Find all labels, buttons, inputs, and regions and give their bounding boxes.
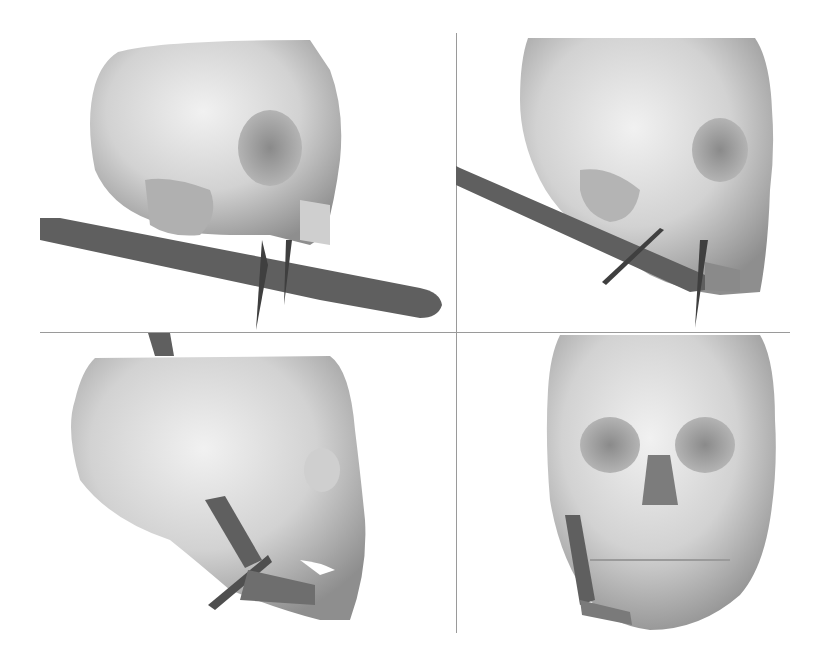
panel-bottom-right xyxy=(0,0,825,664)
